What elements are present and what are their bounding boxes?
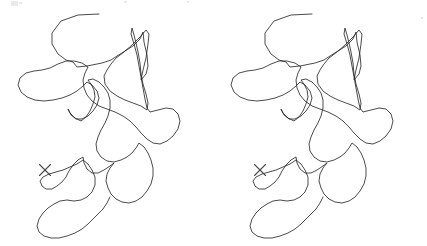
stereo-figure [0,0,427,246]
stereo-pair-canvas [0,0,427,246]
figure-background [0,0,427,246]
